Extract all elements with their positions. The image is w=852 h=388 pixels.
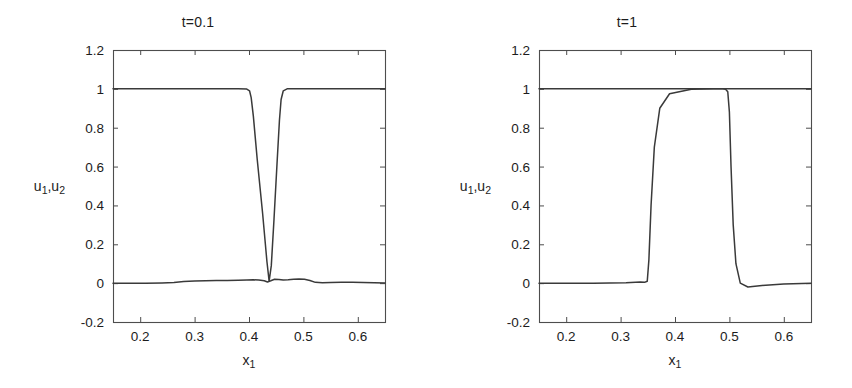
x-axis-label-left: x1 <box>243 352 256 368</box>
axes-frame <box>540 51 812 323</box>
x-tick-label: 0.4 <box>666 329 685 344</box>
plot-panel-left: t=0.1 u1,u2 x1 -0.200.20.40.60.811.20.20… <box>0 0 426 388</box>
y-tick-label: 0.2 <box>426 237 530 252</box>
y-tick-label: 0.8 <box>426 120 530 135</box>
y-tick-label: 0.6 <box>0 159 104 174</box>
x-tick-label: 0.3 <box>611 329 630 344</box>
y-tick-label: 0.4 <box>426 198 530 213</box>
y-tick-label: -0.2 <box>426 315 530 330</box>
y-tick-label: 0.6 <box>426 159 530 174</box>
y-axis-label-right: u1,u2 <box>426 178 491 194</box>
y-tick-label: -0.2 <box>0 315 104 330</box>
y-tick-label: 0 <box>0 276 104 291</box>
y-tick-label: 0.8 <box>0 120 104 135</box>
x-tick-label: 0.6 <box>774 329 793 344</box>
plot-panel-right: t=1 u1,u2 x1 -0.200.20.40.60.811.20.20.3… <box>426 0 852 388</box>
data-series-u1 <box>113 89 385 281</box>
x-tick-label: 0.5 <box>294 329 313 344</box>
y-tick-label: 0.4 <box>0 198 104 213</box>
data-series-u2 <box>539 89 811 287</box>
y-tick-label: 1.2 <box>426 43 530 58</box>
y-tick-label: 1 <box>0 81 104 96</box>
x-tick-label: 0.3 <box>185 329 204 344</box>
x-tick-label: 0.4 <box>240 329 259 344</box>
y-axis-label-left: u1,u2 <box>0 178 65 194</box>
y-tick-label: 1 <box>426 81 530 96</box>
x-tick-label: 0.2 <box>557 329 576 344</box>
y-tick-label: 0.2 <box>0 237 104 252</box>
x-tick-label: 0.2 <box>131 329 150 344</box>
x-tick-label: 0.6 <box>348 329 367 344</box>
x-axis-label-right: x1 <box>669 352 682 368</box>
y-tick-label: 1.2 <box>0 43 104 58</box>
x-tick-label: 0.5 <box>720 329 739 344</box>
data-series-u2 <box>113 279 385 283</box>
y-tick-label: 0 <box>426 276 530 291</box>
figure-container: t=0.1 u1,u2 x1 -0.200.20.40.60.811.20.20… <box>0 0 852 388</box>
